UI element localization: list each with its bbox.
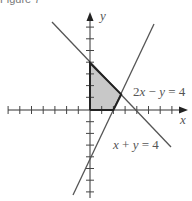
y-axis-label: y bbox=[98, 8, 106, 23]
label-2x-minus-y-eq-4: 2x − y = 4 bbox=[133, 84, 186, 99]
coordinate-plane: y x 2x − y = 4 x + y = 4 bbox=[0, 0, 192, 201]
y-axis-arrow-icon bbox=[87, 12, 94, 21]
x-axis-label: x bbox=[179, 112, 186, 127]
label-x-plus-y-eq-4: x + y = 4 bbox=[112, 137, 159, 152]
